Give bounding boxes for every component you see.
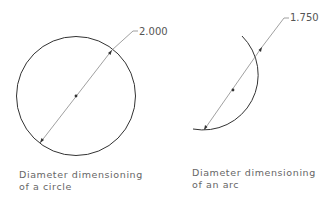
- arc-dimension-text: 1.750: [290, 12, 319, 23]
- arc-center-mark: [232, 89, 235, 92]
- arc-caption: Diameter dimensioning of an arc: [192, 167, 316, 191]
- circle-leader: [112, 31, 138, 50]
- circle-center-mark: [75, 95, 78, 98]
- arc-figure: 1.750: [193, 12, 319, 130]
- arc-outline: [193, 36, 258, 130]
- circle-figure: 2.000: [17, 26, 168, 156]
- circle-caption: Diameter dimensioning of a circle: [19, 169, 143, 193]
- circle-caption-line2: of a circle: [19, 181, 143, 193]
- arc-dimension-line: [204, 47, 262, 130]
- circle-caption-line1: Diameter dimensioning: [19, 169, 143, 181]
- arc-caption-line1: Diameter dimensioning: [192, 167, 316, 179]
- circle-dimension-text: 2.000: [139, 26, 168, 37]
- arc-leader: [262, 18, 289, 47]
- arc-caption-line2: of an arc: [192, 179, 316, 191]
